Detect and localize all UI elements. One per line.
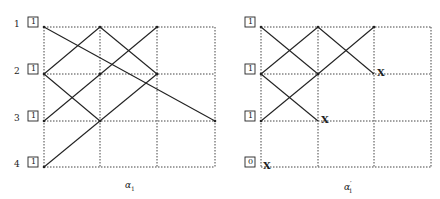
x-mark-1: X [377, 67, 385, 78]
left-box-value-4: 1 [31, 157, 36, 166]
x-mark-2: X [321, 114, 329, 125]
left-box-value-1: 1 [31, 17, 36, 26]
right-caption-sub: 1 [349, 187, 353, 194]
left-caption-sub: 1 [131, 185, 135, 192]
x-mark-3: X [263, 160, 271, 171]
left-row-label-4: 4 [14, 159, 20, 169]
left-row-label-2: 2 [14, 66, 20, 76]
left-paths [44, 27, 215, 167]
left-row-label-3: 3 [14, 113, 20, 123]
diagram-canvas [0, 0, 440, 199]
left-caption: α1 [125, 180, 135, 192]
right-box-value-4: 0 [248, 157, 253, 166]
right-box-value-2: 1 [248, 64, 253, 73]
left-box-value-3: 1 [31, 111, 36, 120]
left-box-value-2: 1 [31, 64, 36, 73]
right-boxes [245, 17, 255, 167]
right-caption: α′1 [344, 180, 353, 194]
right-box-value-1: 1 [248, 17, 253, 26]
right-box-value-3: 1 [248, 111, 253, 120]
left-boxes [28, 17, 38, 167]
left-row-label-1: 1 [14, 19, 20, 29]
